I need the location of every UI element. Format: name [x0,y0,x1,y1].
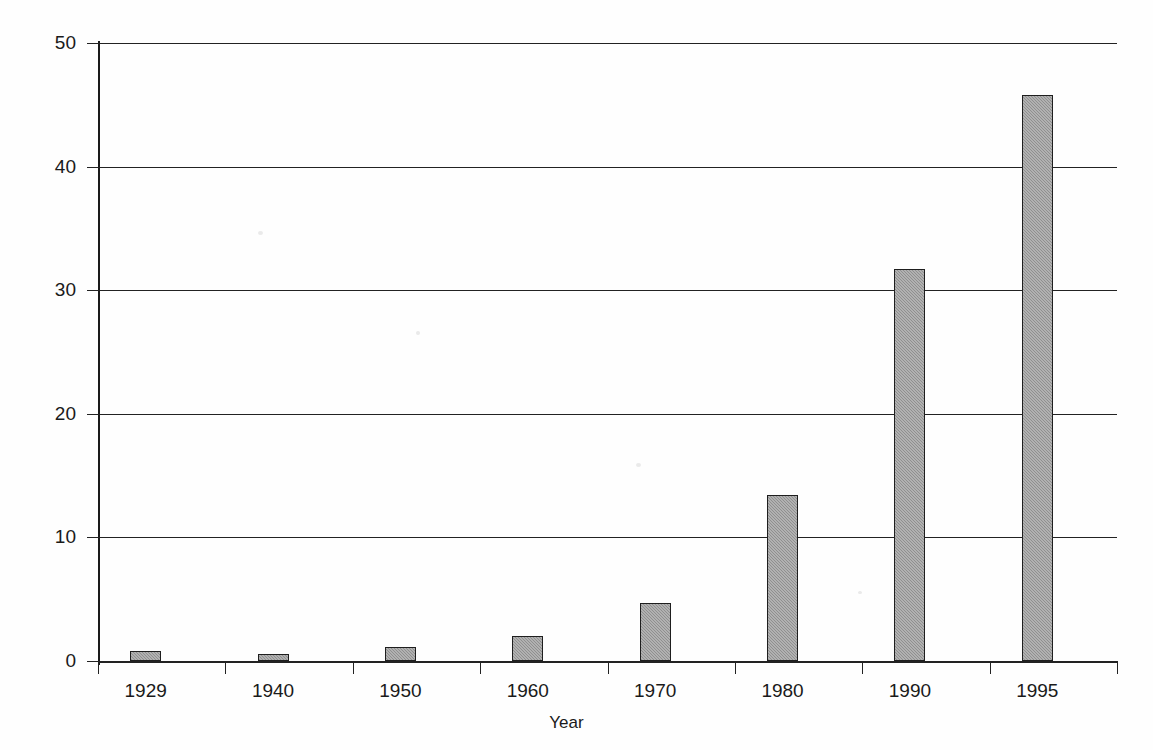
x-tick-mark [480,661,481,674]
x-tick-label-1980: 1980 [761,681,803,700]
bar-1940 [258,654,289,661]
bar-chart: $ Billions 01020304050 19291940195019601… [0,0,1153,750]
gridline [98,43,1117,44]
x-tick-label-1970: 1970 [634,681,676,700]
bar-1990 [894,269,925,661]
bar-1960 [512,636,543,661]
y-tick-label: 30 [55,280,76,299]
y-tick-mark [87,537,98,538]
y-tick-mark [87,290,98,291]
bar-1995 [1022,95,1053,661]
bar-1950 [385,647,416,661]
x-tick-mark [862,661,863,674]
x-axis-title-text: Year [549,713,583,732]
bar-1980 [767,495,798,661]
x-tick-mark [225,661,226,674]
y-tick-label: 50 [55,33,76,52]
y-tick-mark [87,661,98,662]
y-tick-label: 20 [55,404,76,423]
x-tick-mark [1117,661,1118,674]
plot-area: 01020304050 1929194019501960197019801990… [98,43,1117,661]
scan-speck [416,331,420,335]
y-tick-mark [87,414,98,415]
x-tick-label-1990: 1990 [889,681,931,700]
x-tick-label-1940: 1940 [252,681,294,700]
x-tick-mark [990,661,991,674]
x-tick-label-1995: 1995 [1016,681,1058,700]
y-tick-mark [87,43,98,44]
scan-speck [258,231,263,235]
scan-speck [636,463,641,467]
x-tick-mark [735,661,736,674]
y-tick-label: 40 [55,157,76,176]
x-axis-title: Year [0,735,1153,750]
x-tick-label-1960: 1960 [507,681,549,700]
y-tick-label: 10 [55,527,76,546]
scan-speck [858,591,862,594]
y-axis-line [98,41,100,665]
bar-1929 [130,651,161,661]
x-tick-mark [98,661,99,674]
y-tick-label: 0 [65,651,76,670]
bar-1970 [640,603,671,661]
gridline [98,290,1117,291]
x-tick-mark [353,661,354,674]
y-tick-mark [87,167,98,168]
gridline [98,414,1117,415]
x-tick-label-1929: 1929 [125,681,167,700]
x-tick-mark [608,661,609,674]
gridline [98,537,1117,538]
gridline [98,167,1117,168]
x-tick-label-1950: 1950 [379,681,421,700]
y-axis-title: $ Billions [0,0,30,750]
